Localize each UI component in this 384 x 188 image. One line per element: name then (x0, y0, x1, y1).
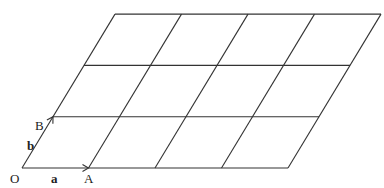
label-point-a: A (84, 172, 93, 185)
grid-column-line (155, 14, 248, 168)
grid-column-line (288, 14, 381, 168)
label-vector-b: b (27, 139, 34, 152)
lattice-diagram (0, 0, 384, 188)
label-vector-a: a (51, 172, 58, 185)
parallelogram-grid (22, 14, 381, 168)
grid-column-line (22, 14, 115, 168)
label-point-b: B (35, 119, 44, 132)
grid-column-line (222, 14, 315, 168)
vector-arrows (47, 117, 89, 172)
label-origin: O (10, 172, 19, 185)
grid-column-line (89, 14, 182, 168)
